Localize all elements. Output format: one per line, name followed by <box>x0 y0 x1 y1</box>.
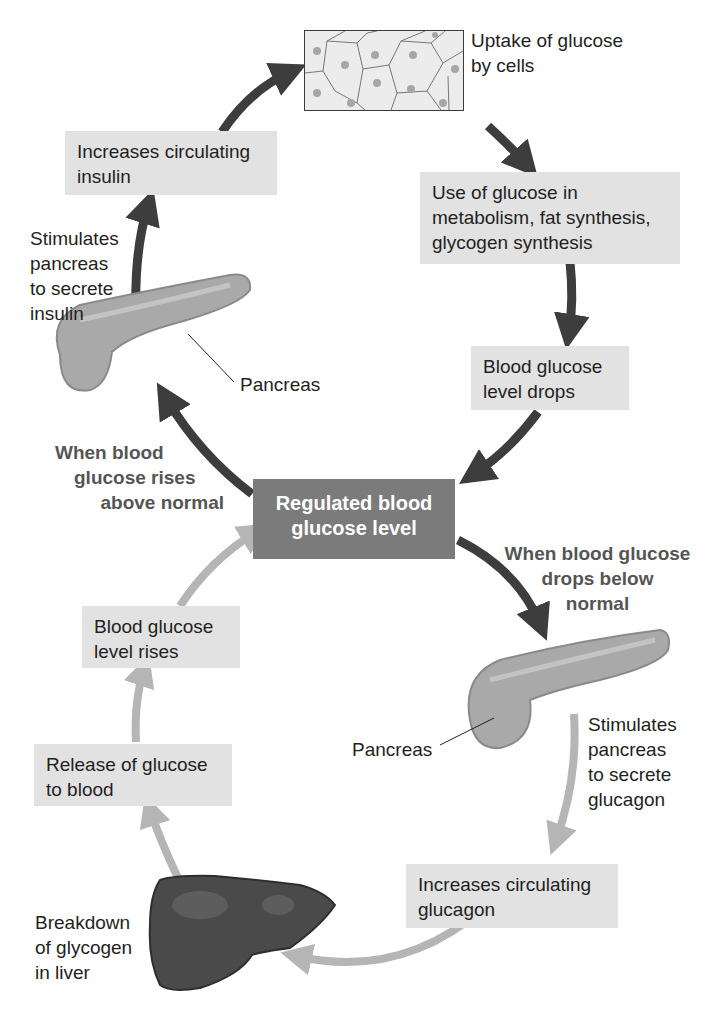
arrow-use-to-drops <box>569 262 572 332</box>
label-stimulates-insulin: Stimulates pancreas to secrete insulin <box>30 226 119 326</box>
arrow-drops-to-center <box>474 412 538 474</box>
arrow-insulin-to-cells <box>222 72 290 132</box>
arrow-pancreas2-to-glucagon <box>556 714 575 840</box>
center-regulated-glucose: Regulated blood glucose level <box>253 479 455 559</box>
box-use-of-glucose: Use of glucose in metabolism, fat synthe… <box>420 172 680 264</box>
box-release-of-glucose: Release of glucose to blood <box>34 744 232 806</box>
label-condition-drops: When blood glucose drops below normal <box>495 541 700 616</box>
box-increases-circulating-insulin: Increases circulating insulin <box>65 131 277 195</box>
box-increases-circulating-glucagon: Increases circulating glucagon <box>406 864 618 928</box>
box-blood-glucose-rises: Blood glucose level rises <box>82 606 240 668</box>
arrow-cells-to-use <box>488 126 526 164</box>
liver-illustration <box>150 876 335 990</box>
label-stimulates-glucagon: Stimulates pancreas to secrete glucagon <box>588 712 677 812</box>
cells-illustration <box>304 30 464 111</box>
arrow-rises-to-center <box>180 532 256 606</box>
label-condition-rises: When blood glucose rises above normal <box>52 440 224 515</box>
arrow-release-to-rises <box>136 670 144 742</box>
label-uptake-of-glucose: Uptake of glucose by cells <box>471 28 623 78</box>
label-breakdown-glycogen: Breakdown of glycogen in liver <box>35 910 132 985</box>
label-pancreas-bottom: Pancreas <box>352 737 432 762</box>
box-blood-glucose-drops: Blood glucose level drops <box>471 346 629 410</box>
arrow-liver-to-release <box>150 810 178 878</box>
label-pancreas-top: Pancreas <box>240 372 320 397</box>
